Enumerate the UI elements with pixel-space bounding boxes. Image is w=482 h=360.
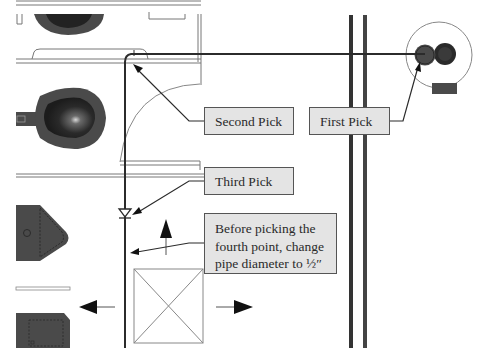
door-swing-arc xyxy=(120,84,200,162)
cabinet-fixture xyxy=(16,313,70,348)
note-line-1: Before picking the xyxy=(215,220,336,238)
fourth-note-leader xyxy=(137,243,204,252)
sink-fixture xyxy=(16,205,69,261)
arrow-right-icon xyxy=(216,300,253,314)
first-pick-callout: First Pick xyxy=(309,107,390,135)
arrow-up-icon xyxy=(160,219,172,255)
wall-bracket xyxy=(149,12,185,19)
check-valve-icon xyxy=(119,209,131,218)
fourth-point-note-callout: Before picking the fourth point, change … xyxy=(204,213,337,274)
second-pick-callout: Second Pick xyxy=(204,107,294,135)
first-pick-leader xyxy=(389,67,418,121)
third-pick-leader xyxy=(140,181,204,211)
toilet-fixture-top xyxy=(17,14,104,35)
double-wall xyxy=(349,15,367,348)
floor-drain-fixture xyxy=(406,22,472,94)
x-box-opening xyxy=(134,269,203,343)
cad-drawing-canvas: Second Pick First Pick Third Pick Before… xyxy=(0,0,482,360)
toilet-fixture-middle xyxy=(16,88,106,149)
first-pick-label: First Pick xyxy=(320,114,372,129)
arrow-left-icon xyxy=(79,300,115,314)
third-pick-label: Third Pick xyxy=(215,174,272,189)
note-line-2: fourth point, change xyxy=(215,238,336,256)
note-line-3: pipe diameter to ½″ xyxy=(215,255,336,273)
shelf-bar xyxy=(16,287,70,290)
third-pick-callout: Third Pick xyxy=(204,167,294,195)
second-pick-leader xyxy=(138,70,204,121)
second-pick-label: Second Pick xyxy=(215,114,282,129)
counter-ledge-lower xyxy=(16,161,204,177)
